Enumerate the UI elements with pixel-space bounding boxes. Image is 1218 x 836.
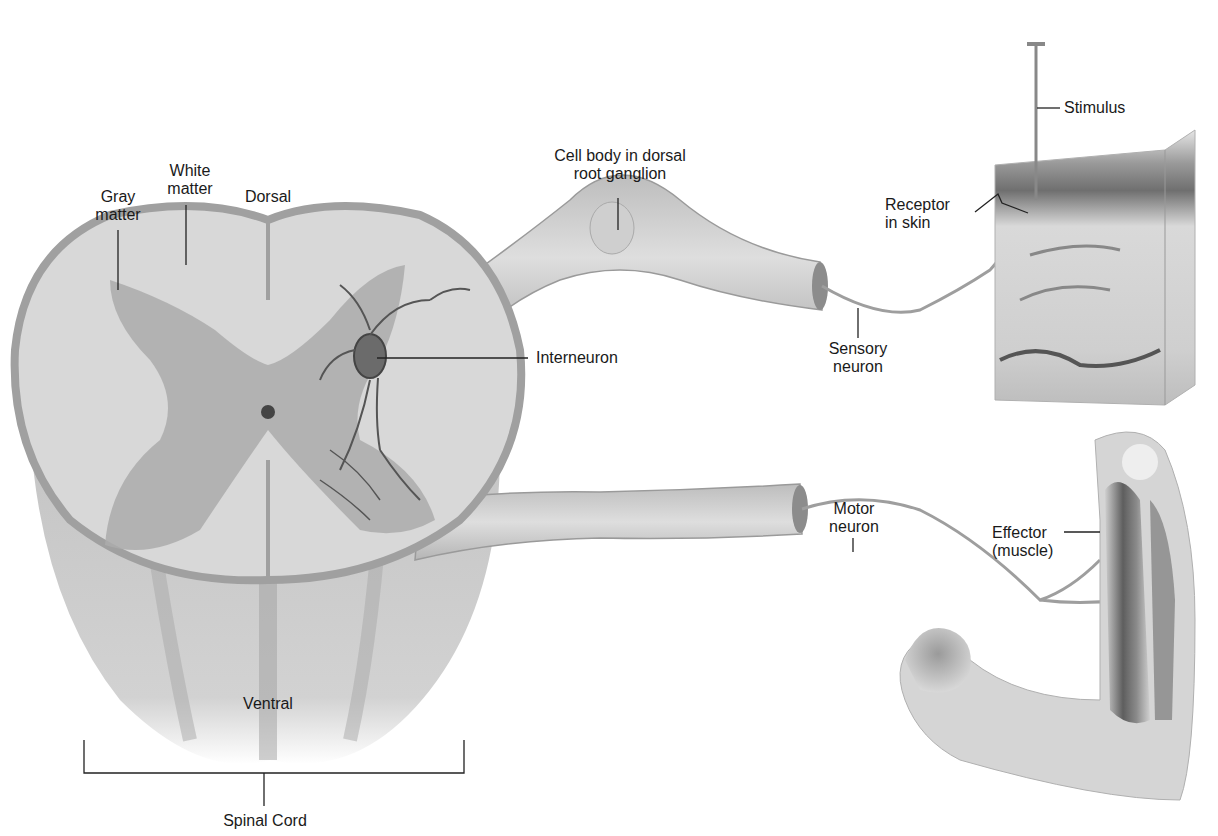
label-ventral: Ventral xyxy=(228,695,308,713)
skin-block xyxy=(995,130,1195,405)
label-spinal-cord: Spinal Cord xyxy=(200,812,330,830)
label-cell-body-dorsal-root-ganglion: Cell body in dorsal root ganglion xyxy=(540,147,700,183)
spinal-cord-cross-section xyxy=(15,206,522,580)
label-white-matter: White matter xyxy=(150,162,230,198)
arm-with-muscle xyxy=(900,432,1195,800)
reflex-arc-diagram xyxy=(0,0,1218,836)
central-canal xyxy=(261,405,275,419)
label-stimulus: Stimulus xyxy=(1064,99,1164,117)
label-motor-neuron: Motor neuron xyxy=(804,500,904,536)
label-effector-muscle: Effector (muscle) xyxy=(992,524,1092,560)
label-interneuron: Interneuron xyxy=(536,349,656,367)
label-gray-matter: Gray matter xyxy=(78,188,158,224)
label-receptor-in-skin: Receptor in skin xyxy=(885,196,985,232)
label-dorsal: Dorsal xyxy=(228,188,308,206)
label-sensory-neuron: Sensory neuron xyxy=(808,340,908,376)
